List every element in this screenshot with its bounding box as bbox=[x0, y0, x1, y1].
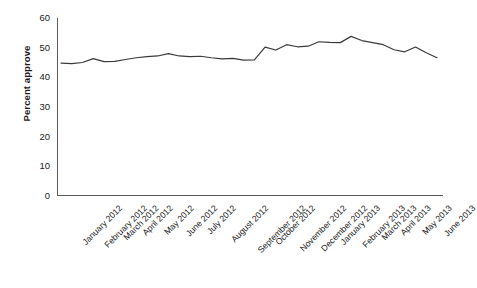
x-axis-tick-labels: January 2012February 2012March 2012April… bbox=[0, 0, 452, 288]
approval-rating-line-chart: Percent approve 0102030405060 January 20… bbox=[0, 0, 452, 288]
